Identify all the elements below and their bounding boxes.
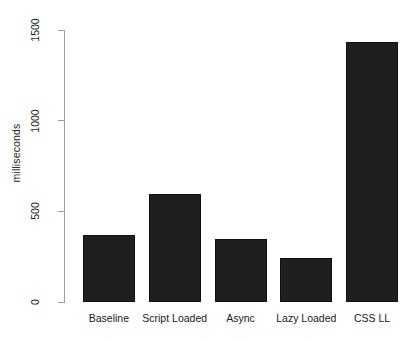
bar-async — [215, 239, 267, 302]
bar-baseline — [83, 235, 135, 302]
plot-area — [0, 0, 418, 342]
bar-css-ll — [346, 42, 398, 302]
bar-lazy-loaded — [280, 258, 332, 302]
bar-script-loaded — [149, 194, 201, 302]
bar-chart: milliseconds 050010001500 BaselineScript… — [0, 0, 418, 342]
x-axis-tick-label: CSS LL — [327, 311, 417, 325]
